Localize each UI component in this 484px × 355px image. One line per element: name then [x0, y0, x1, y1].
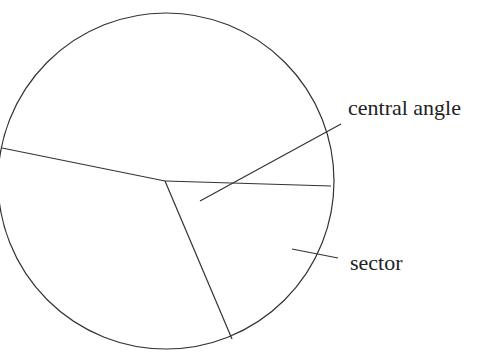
central-angle-leader-line [200, 124, 341, 201]
central-angle-label: central angle [348, 95, 461, 120]
circle-sector-diagram: central angle sector [0, 0, 484, 355]
sector-label: sector [350, 250, 403, 275]
left-radius [2, 148, 165, 181]
bottom-radius [165, 181, 232, 339]
sector-leader-line [292, 249, 338, 258]
right-radius [165, 181, 331, 186]
